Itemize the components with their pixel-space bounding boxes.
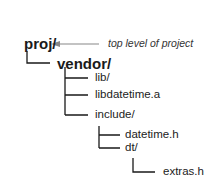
root-folder-proj: proj/	[24, 36, 57, 51]
connector-include-children	[99, 126, 120, 148]
folder-vendor: vendor/	[57, 56, 111, 71]
file-datetime-h: datetime.h	[125, 129, 179, 141]
connector-proj-vendor	[27, 51, 50, 63]
file-libdatetime-a: libdatetime.a	[95, 89, 160, 101]
folder-include: include/	[95, 109, 135, 121]
folder-lib: lib/	[95, 72, 110, 84]
connector-dt-children	[133, 158, 155, 172]
root-annotation: top level of project	[108, 38, 193, 49]
file-extras-h: extras.h	[163, 166, 204, 178]
folder-dt: dt/	[125, 142, 138, 154]
connector-vendor-children	[65, 67, 88, 115]
arrow-icon	[51, 41, 99, 47]
